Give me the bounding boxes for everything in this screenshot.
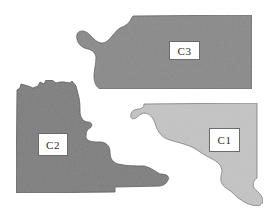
region-map-diagram: C3 C2 C1 [0, 0, 277, 219]
region-c3[interactable] [77, 15, 252, 89]
region-label-c2: C2 [38, 133, 68, 156]
region-label-c2-text: C2 [46, 139, 60, 151]
region-label-c3: C3 [169, 41, 200, 60]
region-label-c1-text: C1 [218, 134, 232, 146]
region-label-c1: C1 [209, 128, 240, 152]
region-map-svg [0, 0, 277, 219]
region-c1[interactable] [131, 103, 263, 206]
region-label-c3-text: C3 [178, 45, 192, 57]
